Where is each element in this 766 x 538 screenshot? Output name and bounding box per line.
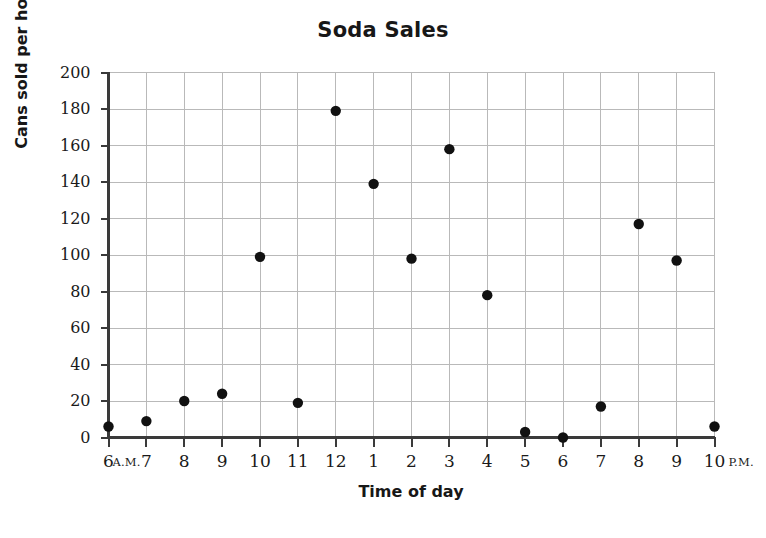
data-point [634, 219, 644, 229]
data-point [709, 421, 719, 431]
y-axis-tick-label: 80 [47, 283, 91, 301]
x-axis-tick-label: 1 [359, 450, 389, 472]
data-point [331, 106, 341, 116]
y-axis-tick-label: 20 [47, 392, 91, 410]
y-axis-tick-label: 180 [47, 100, 91, 118]
y-axis-tick-label: 120 [47, 210, 91, 228]
data-point [217, 389, 227, 399]
scatter-chart: Soda Sales Cans sold per hour 0204060801… [0, 0, 766, 538]
x-axis-tick-label: 12 [321, 450, 351, 472]
y-axis-tick-label: 140 [47, 173, 91, 191]
x-axis-tick-label: 6 [548, 450, 578, 472]
y-axis-tick-label: 200 [47, 64, 91, 82]
data-point [368, 179, 378, 189]
data-point [558, 432, 568, 442]
x-axis-tick-label: 4 [472, 450, 502, 472]
x-axis-tick-label: 2 [397, 450, 427, 472]
x-axis-tick-label: 5 [510, 450, 540, 472]
data-point [671, 255, 681, 265]
data-point [596, 401, 606, 411]
data-point [482, 290, 492, 300]
x-axis-pm-suffix: P.M. [729, 450, 754, 472]
x-axis-tick-label: 11 [283, 450, 313, 472]
x-axis-tick-label: 7 [586, 450, 616, 472]
data-point [103, 421, 113, 431]
data-point [255, 252, 265, 262]
x-axis-tick-label: 8 [169, 450, 199, 472]
x-axis-tick-label: 3 [434, 450, 464, 472]
y-axis-tick-label: 60 [47, 319, 91, 337]
data-point [444, 144, 454, 154]
data-point [293, 398, 303, 408]
data-point [141, 416, 151, 426]
y-axis-tick-label: 100 [47, 246, 91, 264]
x-axis-tick-label: 9 [662, 450, 692, 472]
data-point [406, 253, 416, 263]
x-axis-tick-label: 9 [207, 450, 237, 472]
x-axis-tick-label: 10 [700, 450, 730, 472]
y-axis-tick-label: 40 [47, 356, 91, 374]
x-axis-tick-label: 8 [624, 450, 654, 472]
x-axis-am-suffix: A.M. [113, 450, 141, 472]
data-point [179, 396, 189, 406]
y-axis-tick-label: 160 [47, 137, 91, 155]
y-axis-tick-label: 0 [47, 429, 91, 447]
x-axis-tick-label: 10 [245, 450, 275, 472]
data-point [520, 427, 530, 437]
x-axis-title: Time of day [108, 482, 714, 501]
